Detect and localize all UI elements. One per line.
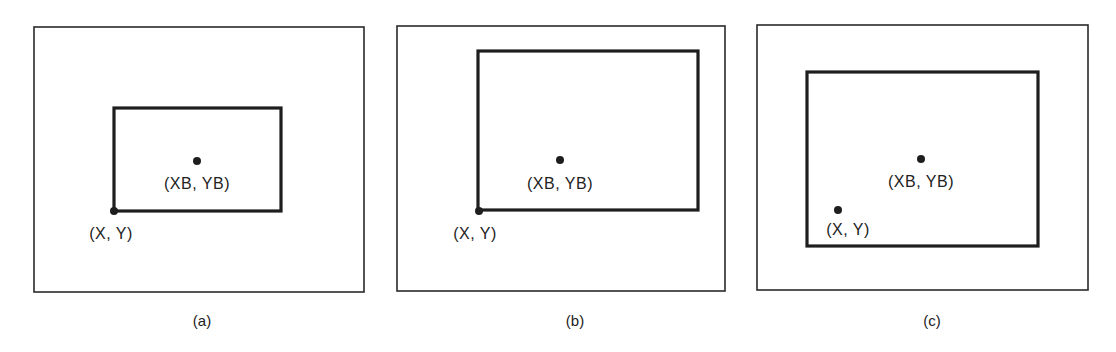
- panel-caption: (b): [566, 312, 584, 329]
- corner-label: (X, Y): [826, 221, 870, 238]
- corner-label: (X, Y): [89, 225, 133, 242]
- panel-caption: (a): [193, 312, 211, 329]
- panel-b: (XB, YB) (X, Y) (b): [397, 26, 725, 329]
- center-point-icon: [917, 155, 925, 163]
- viewport-diagram: (XB, YB) (X, Y) (a) (XB, YB) (X, Y) (b) …: [0, 0, 1116, 352]
- corner-point-icon: [834, 206, 842, 214]
- center-label: (XB, YB): [527, 175, 593, 192]
- panel-c: (XB, YB) (X, Y) (c): [757, 25, 1088, 329]
- center-point-icon: [556, 156, 564, 164]
- corner-point-icon: [475, 207, 483, 215]
- center-label: (XB, YB): [164, 175, 230, 192]
- corner-point-icon: [110, 207, 118, 215]
- center-point-icon: [193, 157, 201, 165]
- panel-caption: (c): [923, 312, 941, 329]
- center-label: (XB, YB): [888, 173, 954, 190]
- panel-a: (XB, YB) (X, Y) (a): [34, 27, 364, 329]
- corner-label: (X, Y): [453, 225, 497, 242]
